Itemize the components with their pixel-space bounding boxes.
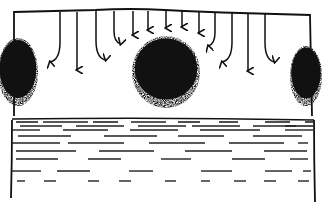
left-blob — [0, 38, 38, 106]
arrow-down-icon — [208, 12, 215, 46]
arrow-down-icon — [222, 12, 232, 62]
center-blob — [132, 36, 200, 108]
arrow-down-icon — [96, 11, 106, 60]
diagram-canvas: Line drawing of a container: a top surfa… — [0, 0, 324, 210]
flow-diagram — [0, 0, 324, 210]
water-lines — [12, 122, 314, 181]
arrow-down-icon — [265, 13, 275, 62]
right-blob — [290, 46, 322, 106]
dark-blobs — [0, 36, 322, 108]
arrow-down-icon — [114, 11, 121, 44]
arrow-down-icon — [50, 12, 60, 62]
